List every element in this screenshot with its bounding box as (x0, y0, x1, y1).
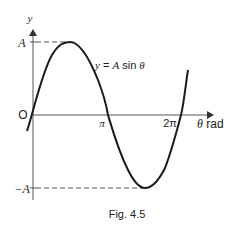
amp-label: A (17, 36, 26, 50)
y-axis-label: y (27, 12, 33, 24)
equation-label: y = A sin θ (94, 59, 145, 71)
figure-caption: Fig. 4.5 (109, 208, 146, 220)
two-pi-label: 2π (163, 117, 177, 129)
neg-amp-label: −A (14, 182, 30, 196)
sine-wave-figure: y A O −A π 2π θ rad y = A sin θ Fig. 4.5 (0, 0, 234, 228)
x-axis-label: θ rad (197, 117, 224, 131)
origin-label: O (18, 108, 27, 122)
pi-label: π (99, 117, 105, 129)
